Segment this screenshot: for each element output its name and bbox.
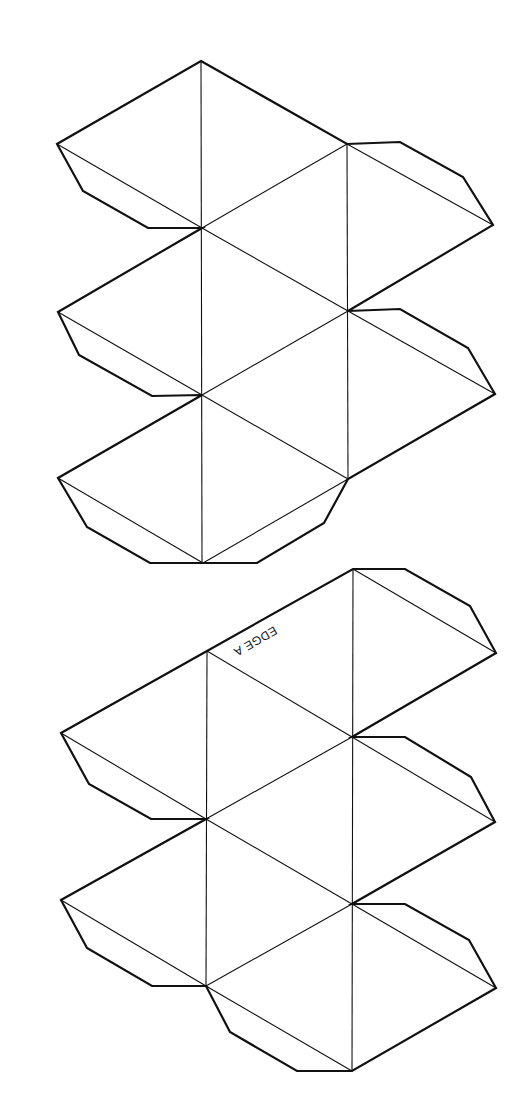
lower-net-cut-outline [61, 569, 496, 1071]
fold-line [202, 144, 347, 228]
fold-line [202, 228, 348, 311]
fold-line [207, 651, 352, 737]
fold-line [202, 395, 348, 479]
edge-a-label: EDGE A [231, 623, 279, 659]
fold-line [352, 904, 496, 988]
fold-line [61, 733, 206, 819]
fold-line [57, 144, 202, 228]
fold-line [201, 61, 202, 563]
fold-line [61, 900, 206, 986]
fold-line [202, 311, 348, 395]
fold-line [352, 569, 353, 1071]
net-diagram: EDGE A [0, 0, 519, 1118]
fold-line [347, 144, 493, 225]
fold-line [353, 569, 496, 653]
fold-line [206, 819, 352, 904]
upper-net [57, 61, 495, 563]
fold-line [58, 478, 203, 563]
fold-line [206, 737, 352, 819]
fold-line [206, 904, 352, 986]
fold-line [348, 311, 495, 394]
lower-net [61, 569, 496, 1071]
upper-net-cut-outline [57, 61, 495, 563]
